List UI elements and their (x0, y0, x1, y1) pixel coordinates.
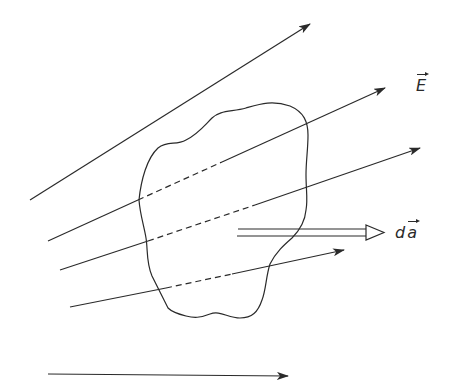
vector-a: a (407, 225, 417, 241)
reference-field-arrow (48, 374, 288, 376)
field-line-1 (30, 24, 310, 200)
flux-diagram (0, 0, 451, 384)
area-vector-arrow (237, 225, 384, 240)
vector-E: E (416, 78, 426, 94)
differential-d: d (395, 223, 405, 242)
field-line-4 (70, 250, 344, 307)
area-element-label: da (395, 225, 417, 241)
surface-outline (139, 103, 308, 318)
field-label-E: E (416, 78, 426, 94)
field-line-3 (60, 148, 420, 270)
